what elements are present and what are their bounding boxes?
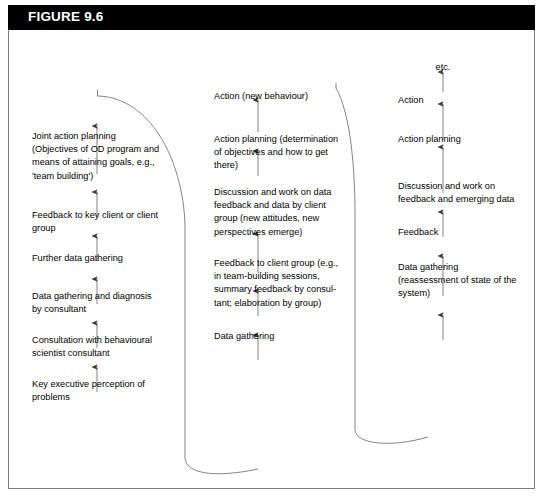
node-phase2-feedback-to-client-group: Feedback to client group (e.g., in team-… xyxy=(214,257,374,310)
node-phase3-feedback: Feedback xyxy=(398,226,538,239)
node-phase3-action: Action xyxy=(398,94,538,107)
node-phase1-feedback-to-key-client: Feedback to key client or client group xyxy=(32,209,192,235)
figure-label: FIGURE 9.6 xyxy=(28,9,104,24)
node-phase2-action-planning: Action planning (determination of object… xyxy=(214,133,374,173)
node-phase1-further-data-gathering: Further data gathering xyxy=(32,252,192,265)
figure-container: FIGURE 9.6 xyxy=(0,0,542,502)
figure-header-bar: FIGURE 9.6 xyxy=(8,5,535,30)
node-phase2-discussion-and-work: Discussion and work on data feedback and… xyxy=(214,186,374,239)
node-phase3-data-gathering-reassessment: Data gathering (reassessment of state of… xyxy=(398,261,538,301)
node-phase1-joint-action-planning: Joint action planning (Objectives of OD … xyxy=(32,130,192,183)
node-phase2-action-new-behaviour: Action (new behaviour) xyxy=(214,90,374,103)
node-phase2-data-gathering: Data gathering xyxy=(214,330,374,343)
node-phase3-etc: etc. xyxy=(413,61,473,74)
node-phase1-consultation-behavioural-scientist: Consultation with behavioural scientist … xyxy=(32,334,192,360)
node-phase3-discussion-and-work: Discussion and work on feedback and emer… xyxy=(398,180,538,206)
node-phase1-data-gathering-diagnosis: Data gathering and diagnosis by consulta… xyxy=(32,290,192,316)
node-phase1-key-executive-perception: Key executive perception of problems xyxy=(32,378,192,404)
node-phase3-action-planning: Action planning xyxy=(398,133,538,146)
